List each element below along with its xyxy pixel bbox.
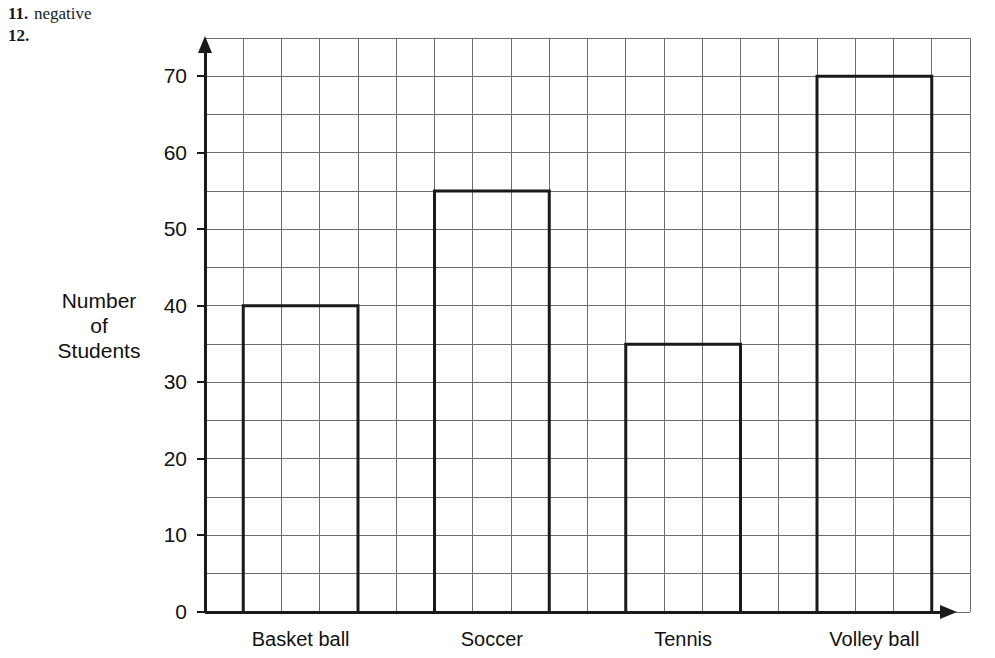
bar-soccer xyxy=(435,191,550,612)
y-tick-label-70: 70 xyxy=(139,65,187,86)
x-category-label-soccer: Soccer xyxy=(402,629,582,649)
y-tick-label-10: 10 xyxy=(139,524,187,545)
y-tick-label-0: 0 xyxy=(139,601,187,622)
y-tick-label-20: 20 xyxy=(139,448,187,469)
x-category-label-tennis: Tennis xyxy=(593,629,773,649)
x-axis-arrowhead xyxy=(940,605,957,619)
x-category-label-basket-ball: Basket ball xyxy=(211,629,391,649)
bar-chart xyxy=(0,0,995,658)
worksheet-page: 11.negative 12. Number of Students 01020… xyxy=(0,0,995,658)
bar-tennis xyxy=(626,344,741,612)
y-tick-label-40: 40 xyxy=(139,295,187,316)
chart-axes xyxy=(197,36,957,619)
x-category-label-volley-ball: Volley ball xyxy=(784,629,964,649)
y-tick-label-30: 30 xyxy=(139,371,187,392)
y-tick-label-60: 60 xyxy=(139,142,187,163)
y-axis-arrowhead xyxy=(198,36,212,53)
chart-canvas xyxy=(0,0,995,658)
y-tick-label-50: 50 xyxy=(139,218,187,239)
chart-gridlines xyxy=(205,38,970,612)
